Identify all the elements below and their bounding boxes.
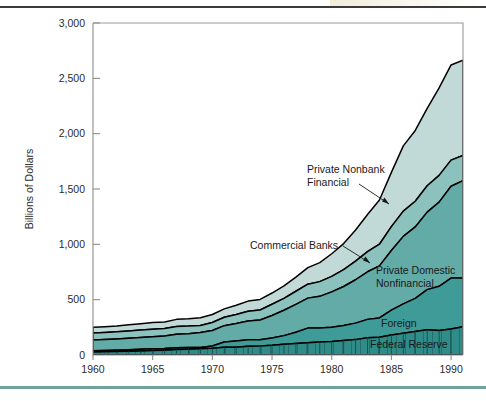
y-tick-label: 3,000 [59, 17, 85, 29]
y-tick-label: 0 [79, 349, 85, 361]
y-tick-label: 2,500 [59, 72, 85, 84]
annotation-private-nonbank-financial: Private Nonbank Financial [307, 163, 389, 204]
y-tick-label: 1,000 [59, 238, 85, 250]
stacked-area-chart-figure: 05001,0001,5002,0002,5003,000 1960196519… [0, 10, 486, 384]
annotation-label-line1: Federal Reserve [370, 338, 448, 350]
y-axis-tick-labels: 05001,0001,5002,0002,5003,000 [59, 17, 85, 361]
y-axis-title: Billions of Dollars [23, 149, 35, 230]
x-tick-label: 1970 [201, 363, 225, 375]
y-tick-label: 500 [67, 293, 85, 305]
area-bands-group [93, 60, 463, 355]
x-axis-tick-labels: 1960196519701975198019851990 [81, 363, 463, 375]
top-horizontal-rule [0, 6, 486, 8]
y-tick-label: 2,000 [59, 127, 85, 139]
bottom-horizontal-rule [0, 386, 486, 389]
y-tick-label: 1,500 [59, 183, 85, 195]
x-tick-label: 1975 [260, 363, 284, 375]
annotation-label-line1: Commercial Banks [250, 239, 338, 251]
annotation-label-line1: Private Nonbank [307, 163, 385, 175]
annotation-label-line1: Foreign [381, 317, 417, 329]
annotation-label-line1: Private Domestic [376, 264, 455, 276]
x-tick-label: 1965 [141, 363, 165, 375]
x-tick-label: 1960 [81, 363, 105, 375]
y-axis-ticks [93, 23, 100, 300]
annotation-foreign: Foreign [381, 317, 417, 329]
x-tick-label: 1980 [320, 363, 344, 375]
annotation-label-line2: Financial [307, 176, 349, 188]
chart-svg: 05001,0001,5002,0002,5003,000 1960196519… [0, 10, 486, 384]
x-tick-label: 1985 [380, 363, 404, 375]
x-tick-label: 1990 [439, 363, 463, 375]
x-axis-ticks [93, 355, 451, 360]
annotation-label-line2: Nonfinancial [376, 277, 434, 289]
annotation-federal-reserve: Federal Reserve [370, 338, 448, 350]
